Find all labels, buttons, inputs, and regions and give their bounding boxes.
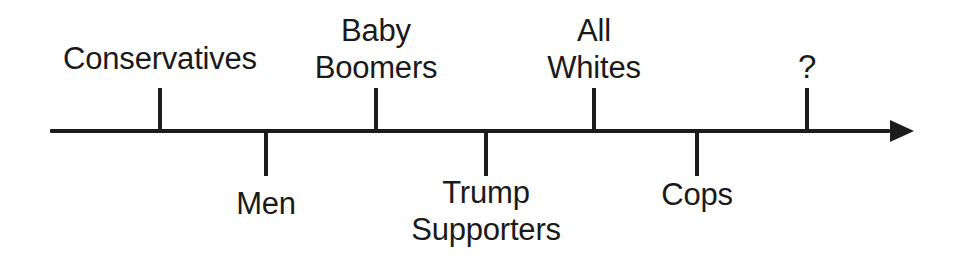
tick-cops	[695, 131, 699, 176]
label-trump-supporters: Trump Supporters	[411, 174, 561, 248]
label-all-whites: All Whites	[547, 12, 641, 86]
label-baby-boomers: Baby Boomers	[315, 12, 438, 86]
spectrum-diagram-canvas: ConservativesMenBaby BoomersTrump Suppor…	[0, 0, 954, 274]
tick-men	[264, 131, 268, 176]
axis-line	[50, 129, 890, 133]
label-conservatives: Conservatives	[63, 40, 257, 77]
label-men: Men	[236, 185, 296, 222]
label-cops: Cops	[661, 176, 733, 213]
tick-all-whites	[592, 88, 596, 133]
tick-baby-boomers	[374, 88, 378, 133]
tick-question-mark	[805, 88, 809, 133]
tick-conservatives	[158, 88, 162, 133]
label-question-mark: ?	[798, 48, 816, 85]
axis-arrowhead-icon	[890, 120, 914, 142]
tick-trump-supporters	[484, 131, 488, 176]
